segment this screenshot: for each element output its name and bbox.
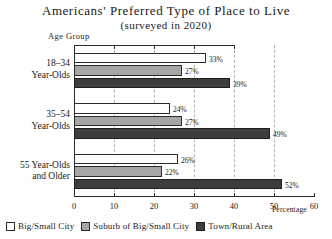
group-label-line: 18–34 (32, 58, 70, 70)
group-label-line: and Older (20, 171, 70, 183)
group-label-line: Year-Olds (32, 121, 70, 133)
x-tick-label-10: 10 (110, 201, 119, 211)
chart-subtitle: (surveyed in 2020) (0, 19, 332, 31)
bar-chart: Americans' Preferred Type of Place to Li… (0, 0, 332, 239)
white-swatch (6, 222, 15, 231)
bar-value-0-0: 33% (209, 55, 223, 64)
gray-swatch (81, 222, 90, 231)
bar-value-1-2: 49% (273, 130, 287, 139)
bar-0-2 (74, 78, 230, 89)
chart-legend: Big/Small CitySuburb of Big/Small CityTo… (6, 221, 273, 231)
legend-label-0: Big/Small City (18, 221, 74, 231)
group-label-line: 55 Year-Olds (20, 160, 70, 172)
bar-2-0 (74, 154, 178, 165)
x-tick-10 (114, 193, 115, 197)
bar-2-2 (74, 179, 282, 190)
x-tick-label-0: 0 (72, 201, 76, 211)
gridline-50 (274, 45, 275, 197)
bar-value-1-0: 24% (173, 105, 187, 114)
bar-1-2 (74, 128, 270, 139)
x-tick-label-50: 50 (270, 201, 279, 211)
x-tick-60 (314, 193, 315, 197)
x-tick-30 (194, 193, 195, 197)
bar-1-0 (74, 103, 170, 114)
top-tick-40 (234, 45, 235, 49)
legend-item-1[interactable]: Suburb of Big/Small City (81, 221, 189, 231)
bar-value-2-2: 52% (285, 181, 299, 190)
plot-area: 33%27%39%24%27%49%26%22%52% (74, 45, 314, 197)
x-tick-label-60: 60 (310, 201, 319, 211)
dark-swatch (196, 222, 205, 231)
x-tick-50 (274, 193, 275, 197)
x-tick-40 (234, 193, 235, 197)
bar-value-0-2: 39% (233, 80, 247, 89)
x-tick-label-20: 20 (150, 201, 159, 211)
top-tick-30 (194, 45, 195, 49)
top-tick-0 (74, 45, 75, 49)
group-label-0: 18–34Year-Olds (32, 58, 70, 81)
bar-0-1 (74, 65, 182, 76)
x-tick-label-30: 30 (190, 201, 199, 211)
bar-value-2-0: 26% (181, 156, 195, 165)
bar-1-1 (74, 116, 182, 127)
group-label-1: 35–54Year-Olds (32, 109, 70, 132)
legend-item-2[interactable]: Town/Rural Area (196, 221, 272, 231)
legend-label-2: Town/Rural Area (208, 221, 272, 231)
top-tick-20 (154, 45, 155, 49)
bar-0-0 (74, 53, 206, 64)
group-label-line: Year-Olds (32, 70, 70, 82)
bar-2-1 (74, 166, 162, 177)
legend-item-0[interactable]: Big/Small City (6, 221, 74, 231)
x-tick-0 (74, 193, 75, 197)
x-tick-label-40: 40 (230, 201, 239, 211)
x-tick-20 (154, 193, 155, 197)
bar-value-2-1: 22% (165, 168, 179, 177)
group-label-2: 55 Year-Oldsand Older (20, 160, 70, 183)
bar-value-0-1: 27% (185, 67, 199, 76)
top-tick-10 (114, 45, 115, 49)
chart-title: Americans' Preferred Type of Place to Li… (0, 3, 332, 19)
legend-label-1: Suburb of Big/Small City (93, 221, 189, 231)
y-axis-label: Age Group (48, 31, 90, 41)
bar-value-1-1: 27% (185, 118, 199, 127)
gridline-40 (234, 45, 235, 197)
group-label-line: 35–54 (32, 109, 70, 121)
